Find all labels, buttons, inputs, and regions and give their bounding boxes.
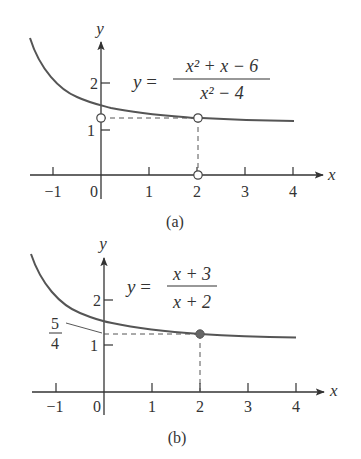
y-tick-label: 2 [90,75,98,92]
x-ticks [53,167,293,175]
callout-denominator: 4 [51,335,59,352]
x-tick-label: 1 [148,398,156,415]
x-tick-label: 4 [289,183,297,200]
x-tick-label: −1 [44,183,61,200]
equation-lhs: y = [125,276,151,297]
equation-numerator: x² + x − 6 [185,56,259,76]
equation-denominator: x² − 4 [199,83,244,103]
x-tick-label: 3 [244,398,252,415]
y-axis-label: y [97,234,107,253]
x-tick-label: 0 [93,398,101,415]
y-tick-label: 1 [90,337,98,354]
x-tick-label: 2 [196,398,204,415]
open-circle-y-axis [97,114,105,122]
panel-label-a: (a) [166,213,184,231]
x-axis-label: x [329,381,338,400]
panel-b: −1 0 1 2 3 4 1 2 x y 5 4 y = x + 3 x + 2… [31,234,338,447]
open-circle-x-axis [194,171,202,179]
x-ticks [56,383,296,392]
function-curve [31,254,296,338]
equation-denominator: x + 2 [172,292,211,312]
x-tick-label: −1 [46,398,63,415]
open-circle-hole [194,114,202,122]
equation-a: y = x² + x − 6 x² − 4 [131,56,270,103]
x-tick-label: 0 [90,183,98,200]
panel-label-b: (b) [168,429,187,447]
panel-a: −1 0 1 2 3 4 1 2 x y y = x² + x − 6 x² −… [30,19,336,231]
x-tick-label: 1 [145,183,153,200]
x-tick-label: 2 [193,183,201,200]
equation-b: y = x + 3 x + 2 [125,264,217,312]
x-axis-label: x [327,165,336,184]
x-tick-label: 3 [241,183,249,200]
figure-canvas: −1 0 1 2 3 4 1 2 x y y = x² + x − 6 x² −… [0,0,361,459]
equation-numerator: x + 3 [172,264,211,284]
y-axis-label: y [94,19,104,38]
callout-leader-line [66,323,102,333]
filled-point [196,330,204,338]
callout-numerator: 5 [51,315,59,332]
dashed-guides [101,118,198,175]
y-tick-label: 1 [87,122,95,139]
x-tick-label: 4 [292,398,300,415]
equation-lhs: y = [131,71,157,92]
y-tick-label: 2 [93,292,101,309]
